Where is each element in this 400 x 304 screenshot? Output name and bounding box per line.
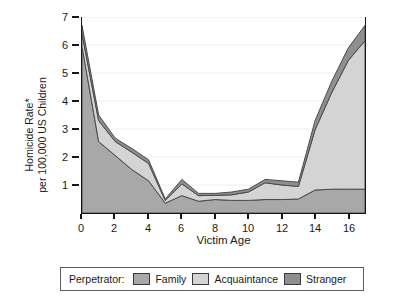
x-axis-title: Victim Age: [81, 234, 366, 246]
y-tick-7: 7: [58, 11, 81, 23]
y-tick-mark: [72, 128, 79, 129]
x-tick-16: 16: [337, 214, 361, 234]
x-tick-mark: [348, 214, 349, 219]
y-tick-mark: [72, 72, 79, 73]
x-tick-6: 6: [169, 214, 193, 234]
x-tick-mark: [314, 214, 315, 219]
y-tick-3: 3: [58, 123, 81, 135]
x-tick-8: 8: [203, 214, 227, 234]
legend-label-acquaintance: Acquaintance: [214, 273, 278, 285]
y-tick-mark: [72, 16, 79, 17]
chart-figure: Homicide Rate* per 100,000 US Children 7…: [0, 0, 400, 304]
legend-label-family: Family: [155, 273, 186, 285]
legend: Perpetrator: Family Acquaintance Strange…: [60, 267, 364, 291]
y-axis-title: Homicide Rate* per 100,000 US Children: [19, 40, 53, 230]
y-tick-mark: [72, 184, 79, 185]
x-tick-mark: [214, 214, 215, 219]
y-axis-title-line-2: per 100,000 US Children: [36, 77, 49, 193]
x-tick-mark: [180, 214, 181, 219]
x-tick-mark: [113, 214, 114, 219]
plot-area: [81, 17, 366, 214]
y-tick-6: 6: [58, 39, 81, 51]
legend-title: Perpetrator:: [69, 273, 124, 285]
y-tick-1: 1: [58, 179, 81, 191]
x-tick-14: 14: [303, 214, 327, 234]
y-tick-mark: [72, 44, 79, 45]
x-tick-mark: [147, 214, 148, 219]
y-axis-title-line-1: Homicide Rate*: [23, 99, 36, 172]
legend-swatch-family: [133, 273, 150, 285]
x-tick-10: 10: [236, 214, 260, 234]
legend-swatch-acquaintance: [192, 273, 209, 285]
x-tick-mark: [80, 214, 81, 219]
legend-item-acquaintance[interactable]: Acquaintance: [192, 273, 278, 285]
y-tick-5: 5: [58, 67, 81, 79]
y-tick-mark: [72, 100, 79, 101]
y-tick-4: 4: [58, 95, 81, 107]
x-tick-12: 12: [270, 214, 294, 234]
y-tick-mark: [72, 156, 79, 157]
x-tick-2: 2: [102, 214, 126, 234]
x-tick-4: 4: [136, 214, 160, 234]
legend-label-stranger: Stranger: [306, 273, 346, 285]
x-tick-0: 0: [69, 214, 93, 234]
x-tick-mark: [281, 214, 282, 219]
legend-swatch-stranger: [284, 273, 301, 285]
y-tick-2: 2: [58, 151, 81, 163]
x-tick-mark: [247, 214, 248, 219]
legend-item-stranger[interactable]: Stranger: [284, 273, 346, 285]
stacked-area-svg: [82, 17, 365, 213]
legend-item-family[interactable]: Family: [133, 273, 186, 285]
